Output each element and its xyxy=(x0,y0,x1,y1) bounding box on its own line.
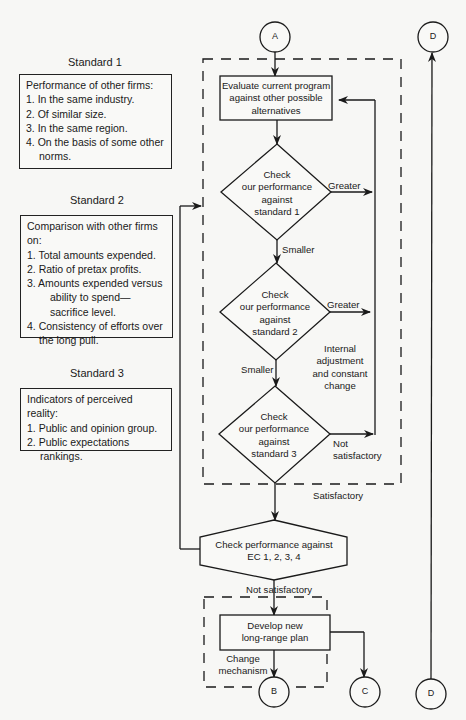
edge-label-satisfactory: Satisfactory xyxy=(313,489,363,502)
label-line: adjustment xyxy=(300,355,380,367)
node-line: our performance xyxy=(227,181,327,193)
edge-label-greater-1: Greater xyxy=(328,179,361,192)
check3-node: Check our performance against standard 3 xyxy=(224,411,324,461)
node-line: standard 1 xyxy=(227,206,327,218)
standard-2-item: 4. Consistency of efforts over xyxy=(27,319,166,333)
standard-2-item: the long pull. xyxy=(27,333,166,347)
node-line: Check xyxy=(227,169,327,181)
evaluate-node: Evaluate current program against other p… xyxy=(220,80,332,117)
edge-label-smaller-2: Smaller xyxy=(241,363,274,376)
standard-1-item: 4. On the basis of some other xyxy=(26,135,165,149)
label-line: and constant xyxy=(300,368,380,380)
node-line: alternatives xyxy=(220,105,332,117)
standard-1-item: 1. In the same industry. xyxy=(26,92,165,106)
standard-3-item: 1. Public and opinion group. xyxy=(27,421,165,435)
label-line: Not xyxy=(333,438,382,450)
connector-b-label: B xyxy=(261,686,287,696)
node-line: EC 1, 2, 3, 4 xyxy=(205,551,343,563)
edge-label-change-mechanism: Change mechanism xyxy=(213,653,273,677)
standard-2-title: Standard 2 xyxy=(70,194,124,206)
connector-c-label: C xyxy=(352,686,378,696)
connector-d-top-label: D xyxy=(420,31,446,41)
node-line: Evaluate current program xyxy=(220,80,332,92)
standard-3-item: rankings. xyxy=(27,449,165,463)
standard-1-item: 2. Of similar size. xyxy=(26,107,165,121)
node-line: our performance xyxy=(225,301,325,313)
node-line: against xyxy=(225,314,325,326)
edge-label-smaller-1: Smaller xyxy=(282,243,315,256)
standard-3-title: Standard 3 xyxy=(70,367,124,379)
node-line: Check xyxy=(225,289,325,301)
node-line: standard 2 xyxy=(225,326,325,338)
standard-1-box: Performance of other firms: 1. In the sa… xyxy=(19,74,172,169)
standard-1-heading: Performance of other firms: xyxy=(26,78,165,92)
label-line: satisfactory xyxy=(333,450,382,462)
node-line: Check xyxy=(224,411,324,423)
node-line: long-range plan xyxy=(220,632,330,644)
node-line: our performance xyxy=(224,423,324,435)
node-line: against xyxy=(227,194,327,206)
edge-label-not-satisfactory-3: Not satisfactory xyxy=(333,438,382,462)
standard-2-item: sacrifice level. xyxy=(27,305,166,319)
standard-2-box: Comparison with other firms on: 1. Total… xyxy=(20,215,173,338)
develop-node: Develop new long-range plan xyxy=(220,620,330,645)
node-line: against other possible xyxy=(220,92,332,104)
standard-1-item: 3. In the same region. xyxy=(26,121,165,135)
edge-label-not-satisfactory-ec: Not satisfactory xyxy=(246,583,312,596)
node-line: standard 3 xyxy=(224,448,324,460)
standard-3-item: 2. Public expectations xyxy=(27,435,165,449)
label-line: change xyxy=(300,380,380,392)
connector-d-bottom-label: D xyxy=(418,688,444,698)
standard-2-item: 3. Amounts expended versus xyxy=(27,276,166,290)
connector-a-label: A xyxy=(262,31,288,41)
check-ec-node: Check performance against EC 1, 2, 3, 4 xyxy=(205,539,343,564)
check1-node: Check our performance against standard 1 xyxy=(227,169,327,219)
label-line: Change xyxy=(213,653,273,665)
standard-2-item: ability to spend— xyxy=(27,290,166,304)
standard-1-item: norms. xyxy=(26,149,165,163)
label-line: mechanism xyxy=(213,665,273,677)
edge-label-internal-adjustment: Internal adjustment and constant change xyxy=(300,343,380,393)
standard-2-item: 2. Ratio of pretax profits. xyxy=(27,262,166,276)
standard-2-heading: Comparison with other firms on: xyxy=(27,219,166,248)
standard-2-item: 1. Total amounts expended. xyxy=(27,248,166,262)
label-line: Internal xyxy=(300,343,380,355)
standard-3-box: Indicators of perceived reality: 1. Publ… xyxy=(20,388,172,451)
check2-node: Check our performance against standard 2 xyxy=(225,289,325,339)
node-line: Check performance against xyxy=(205,539,343,551)
standard-1-title: Standard 1 xyxy=(68,56,122,68)
node-line: against xyxy=(224,436,324,448)
standard-3-heading: Indicators of perceived reality: xyxy=(27,392,165,421)
node-line: Develop new xyxy=(220,620,330,632)
edge-label-greater-2: Greater xyxy=(327,298,360,311)
